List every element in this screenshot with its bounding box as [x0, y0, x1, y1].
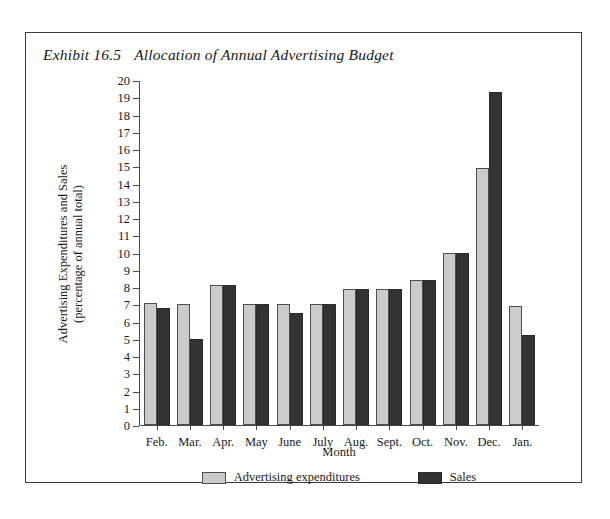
- y-axis-tick-label: 14: [104, 177, 130, 192]
- y-axis-tick: [133, 254, 139, 255]
- bar-sales: [456, 253, 469, 426]
- bar-group: Dec.: [473, 81, 506, 425]
- y-axis-tick: [133, 340, 139, 341]
- bar-group: Feb.: [140, 81, 173, 425]
- bar-advertising-expenditures: [144, 303, 157, 425]
- bar-group: Nov.: [439, 81, 472, 425]
- y-axis-tick: [133, 202, 139, 203]
- bar-group: Apr.: [207, 81, 240, 425]
- y-axis-tick: [133, 185, 139, 186]
- x-axis-tick: [157, 425, 158, 430]
- y-axis-tick: [133, 150, 139, 151]
- legend-swatch-icon-sales: [418, 472, 442, 484]
- y-axis-tick: [133, 409, 139, 410]
- y-axis-tick-label: 17: [104, 125, 130, 140]
- y-axis-tick-label: 1: [104, 401, 130, 416]
- y-axis-tick-label: 16: [104, 143, 130, 158]
- y-axis-tick-label: 15: [104, 160, 130, 175]
- y-axis-tick: [133, 305, 139, 306]
- bar-advertising-expenditures: [243, 304, 256, 425]
- bar-advertising-expenditures: [509, 306, 522, 425]
- y-axis-tick: [133, 374, 139, 375]
- y-axis-tick-label: 2: [104, 384, 130, 399]
- y-axis-tick-label: 19: [104, 91, 130, 106]
- figure-frame: Exhibit 16.5Allocation of Annual Adverti…: [25, 32, 582, 483]
- y-axis-tick: [133, 288, 139, 289]
- bar-advertising-expenditures: [277, 304, 290, 425]
- y-axis-tick-label: 11: [104, 229, 130, 244]
- bar-group: Jan.: [506, 81, 539, 425]
- bar-sales: [157, 308, 170, 425]
- y-axis-title: Advertising Expenditures and Sales (perc…: [54, 81, 88, 426]
- bar-sales: [423, 280, 436, 425]
- bar-group: Aug.: [340, 81, 373, 425]
- bar-advertising-expenditures: [177, 304, 190, 425]
- bar-group: July: [306, 81, 339, 425]
- x-axis-tick: [223, 425, 224, 430]
- bar-group: Mar.: [173, 81, 206, 425]
- y-axis-tick: [133, 81, 139, 82]
- x-axis-tick: [356, 425, 357, 430]
- y-axis-tick-label: 12: [104, 212, 130, 227]
- y-axis-title-line1: Advertising Expenditures and Sales: [56, 164, 71, 343]
- bar-sales: [522, 335, 535, 425]
- x-axis-tick: [323, 425, 324, 430]
- bar-sales: [190, 339, 203, 425]
- y-axis-tick-label: 6: [104, 315, 130, 330]
- legend-label-sales: Sales: [450, 470, 476, 485]
- bar-advertising-expenditures: [476, 168, 489, 425]
- bar-advertising-expenditures: [410, 280, 423, 425]
- y-axis-tick-label: 9: [104, 263, 130, 278]
- y-axis-tick: [133, 392, 139, 393]
- y-axis-tick: [133, 133, 139, 134]
- y-axis-tick: [133, 116, 139, 117]
- y-axis-tick: [133, 357, 139, 358]
- legend-item-sales: Sales: [418, 470, 476, 485]
- legend-label-advertising: Advertising expenditures: [234, 470, 360, 485]
- chart-title: Exhibit 16.5Allocation of Annual Adverti…: [43, 46, 394, 64]
- y-axis-tick: [133, 323, 139, 324]
- y-axis-tick: [133, 219, 139, 220]
- bar-sales: [356, 289, 369, 425]
- y-axis-tick-label: 8: [104, 281, 130, 296]
- bar-sales: [223, 285, 236, 425]
- x-axis-tick: [456, 425, 457, 430]
- x-axis-title: Month: [139, 445, 539, 460]
- y-axis-tick: [133, 426, 139, 427]
- y-axis-tick: [133, 167, 139, 168]
- bar-sales: [323, 304, 336, 425]
- bar-sales: [489, 92, 502, 425]
- bar-group: June: [273, 81, 306, 425]
- bar-sales: [290, 313, 303, 425]
- y-axis-tick: [133, 236, 139, 237]
- chart-legend: Advertising expenditures Sales: [139, 470, 539, 485]
- x-axis-tick: [256, 425, 257, 430]
- x-axis-tick: [389, 425, 390, 430]
- x-axis-tick: [190, 425, 191, 430]
- y-axis-tick-label: 20: [104, 74, 130, 89]
- bar-series-container: Feb.Mar.Apr.MayJuneJulyAug.Sept.Oct.Nov.…: [140, 81, 539, 425]
- bar-advertising-expenditures: [376, 289, 389, 425]
- bar-sales: [389, 289, 402, 425]
- y-axis-tick: [133, 271, 139, 272]
- y-axis-tick-label: 0: [104, 419, 130, 434]
- y-axis-tick-label: 10: [104, 246, 130, 261]
- bar-advertising-expenditures: [343, 289, 356, 425]
- exhibit-number: Exhibit 16.5: [43, 46, 121, 63]
- legend-item-advertising-expenditures: Advertising expenditures: [202, 470, 360, 485]
- x-axis-tick: [522, 425, 523, 430]
- exhibit-title: Allocation of Annual Advertising Budget: [134, 46, 394, 63]
- bar-sales: [256, 304, 269, 425]
- legend-swatch-icon-advertising: [202, 472, 226, 484]
- y-axis-tick-label: 13: [104, 194, 130, 209]
- bar-advertising-expenditures: [210, 285, 223, 425]
- plot-area: 20191817161514131211109876543210 Feb.Mar…: [139, 81, 539, 426]
- y-axis-tick-label: 4: [104, 350, 130, 365]
- bar-group: Sept.: [373, 81, 406, 425]
- y-axis-title-line2: (percentage of annual total): [71, 164, 86, 343]
- x-axis-tick: [489, 425, 490, 430]
- x-axis-tick: [423, 425, 424, 430]
- x-axis-tick: [290, 425, 291, 430]
- y-axis-tick: [133, 98, 139, 99]
- y-axis-tick-label: 5: [104, 332, 130, 347]
